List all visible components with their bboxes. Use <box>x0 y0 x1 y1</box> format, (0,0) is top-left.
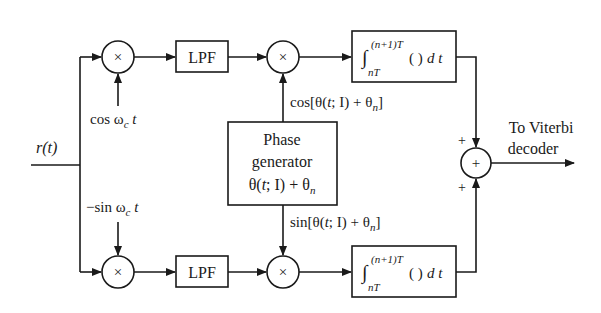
cos-phase-label: cos[θ(t; I) + θn] <box>290 94 383 113</box>
summing-junction: + + + <box>458 133 491 195</box>
phase-generator-line2: generator <box>252 153 313 171</box>
input-signal: r(t) <box>31 57 101 272</box>
integrand: ( ) <box>409 265 423 282</box>
bottom-lpf-label: LPF <box>188 264 216 281</box>
multiply-icon: × <box>114 49 122 65</box>
multiply-icon: × <box>114 264 122 280</box>
output-label-line2: decoder <box>508 140 559 157</box>
summer-bottom-sign: + <box>458 180 466 195</box>
upper-limit: (n+1)T <box>371 38 404 51</box>
top-carrier-label: cos ωc t <box>90 111 137 130</box>
output: To Viterbi decoder <box>491 119 574 163</box>
sin-phase-label: sin[θ(t; I) + θn] <box>290 214 380 233</box>
lower-limit: nT <box>368 281 381 293</box>
output-label-line1: To Viterbi <box>509 119 574 136</box>
phase-generator: Phase generator θ(t; I) + θn <box>228 122 337 205</box>
input-label: r(t) <box>36 139 57 157</box>
plus-icon: + <box>472 155 480 171</box>
summer-top-sign: + <box>458 133 466 148</box>
phase-generator-line1: Phase <box>263 131 300 148</box>
differential: d t <box>427 265 443 281</box>
integrand: ( ) <box>409 50 423 67</box>
demodulator-block-diagram: r(t) × cos ωc t LPF × cos[θ(t; I) + θn] … <box>0 0 601 313</box>
multiply-icon: × <box>279 49 287 65</box>
top-lpf-label: LPF <box>188 49 216 66</box>
differential: d t <box>427 50 443 66</box>
upper-limit: (n+1)T <box>371 253 404 266</box>
multiply-icon: × <box>279 264 287 280</box>
bottom-carrier-label: −sin ωc t <box>86 199 139 218</box>
lower-limit: nT <box>368 66 381 78</box>
